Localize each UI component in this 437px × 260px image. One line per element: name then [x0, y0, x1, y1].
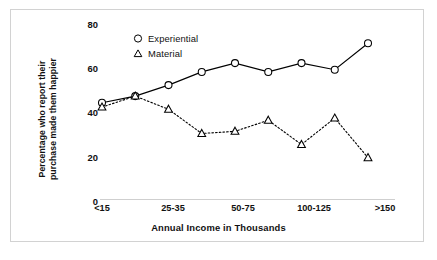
data-point [331, 114, 339, 121]
data-point [265, 68, 272, 75]
chart-figure: Percentage who report their purchase mad… [0, 0, 437, 260]
data-point [232, 60, 239, 67]
plot-area [0, 0, 437, 260]
data-point [365, 40, 372, 47]
series-line-experiential [102, 43, 368, 102]
data-point [165, 82, 172, 89]
series-markers-experiential [99, 40, 372, 106]
data-point [298, 140, 306, 147]
data-point [298, 60, 305, 67]
data-point [198, 68, 205, 75]
series-markers-material [98, 92, 372, 161]
data-point [331, 66, 338, 73]
data-point [264, 116, 272, 123]
